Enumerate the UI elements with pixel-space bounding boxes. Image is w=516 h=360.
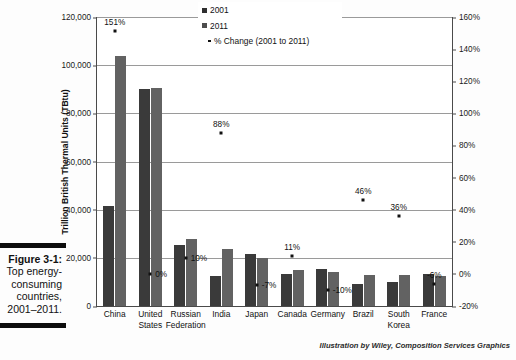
legend-label-pct-change: % Change (2001 to 2011): [214, 36, 309, 46]
bar-2011: [364, 275, 375, 306]
legend-item-pct-change: % Change (2001 to 2011): [202, 36, 338, 46]
legend-item-2011: 2011: [202, 21, 338, 31]
x-axis-label-line: United: [138, 309, 162, 319]
x-axis-label-line: India: [212, 309, 230, 319]
figure-caption-line-4: 2001–2011.: [0, 303, 62, 315]
x-axis-label-line: Brazil: [353, 309, 374, 319]
pct-change-marker: [397, 215, 400, 218]
illustration-credit: Illustration by Wiley, Composition Servi…: [320, 341, 510, 350]
bar-2011: [293, 270, 304, 306]
y-axis-tick-label: 80,000: [66, 109, 97, 118]
legend-label-2011: 2011: [210, 21, 228, 31]
x-axis-label-france: France: [411, 309, 459, 320]
chart-plot-area: 151%0%10%88%-7%11%-10%46%36%-6% 020,0004…: [97, 17, 452, 306]
caption-rule-bottom: [0, 323, 66, 328]
legend-dot-marker-icon: [208, 40, 211, 43]
bar-2011: [399, 275, 410, 306]
bar-group: [316, 17, 339, 306]
y-axis-tick-label: 60,000: [66, 157, 97, 166]
bar-group: [210, 17, 233, 306]
figure-caption-line-1: Top energy-: [0, 265, 62, 277]
x-axis-label-line: South: [388, 309, 410, 319]
pct-change-marker: [255, 284, 258, 287]
y-axis-tick-label: 100,000: [61, 61, 97, 70]
bar-2001: [103, 206, 114, 306]
pct-change-label: 151%: [104, 18, 125, 27]
legend-swatch-2001-icon: [202, 8, 207, 13]
bar-2001: [174, 245, 185, 306]
bar-group: [174, 17, 197, 306]
secondary-y-axis-tick-label: 100%: [452, 109, 480, 118]
x-axis-category-labels: ChinaUnitedStatesRussianFederationIndiaJ…: [97, 309, 452, 343]
secondary-y-axis-tick-label: 40%: [452, 205, 475, 214]
bar-2001: [210, 276, 221, 306]
chart-legend: 2001 2011 % Change (2001 to 2011): [198, 2, 342, 50]
bar-group: [281, 17, 304, 306]
bar-2011: [222, 249, 233, 306]
bar-group: [423, 17, 446, 306]
bar-group: [245, 17, 268, 306]
pct-change-marker: [326, 288, 329, 291]
y-axis-tick-label: 40,000: [66, 205, 97, 214]
x-axis-label-line: Federation: [162, 320, 210, 331]
bar-2011: [115, 56, 126, 306]
bar-group: [352, 17, 375, 306]
pct-change-label: 36%: [391, 203, 407, 212]
x-axis-label-line: Russian: [171, 309, 201, 319]
secondary-y-axis-tick-label: 120%: [452, 77, 480, 86]
chart-plot-frame: 151%0%10%88%-7%11%-10%46%36%-6% 020,0004…: [97, 17, 452, 306]
bar-2001: [387, 282, 398, 306]
figure-caption-line-3: countries,: [0, 290, 62, 302]
bar-2011: [435, 276, 446, 306]
pct-change-label: -7%: [262, 281, 277, 290]
bar-2001: [316, 269, 327, 306]
legend-item-2001: 2001: [202, 5, 338, 15]
x-axis-label-line: France: [421, 309, 447, 319]
bar-2001: [281, 274, 292, 307]
pct-change-marker: [220, 131, 223, 134]
secondary-y-axis-tick-label: 160%: [452, 13, 480, 22]
pct-change-marker: [433, 282, 436, 285]
bar-group: [387, 17, 410, 306]
legend-label-2001: 2001: [210, 5, 229, 15]
pct-change-marker: [113, 30, 116, 33]
x-axis-label-line: Japan: [245, 309, 268, 319]
pct-change-label: 0%: [155, 269, 167, 278]
pct-change-label: -6%: [427, 271, 442, 280]
pct-change-label: 88%: [213, 120, 229, 129]
x-axis-label-line: China: [104, 309, 126, 319]
pct-change-label: 46%: [355, 187, 371, 196]
secondary-y-axis-line: [452, 17, 453, 306]
figure-caption-text: Figure 3-1: Top energy- consuming countr…: [0, 248, 66, 319]
figure-caption-label: Figure 3-1:: [0, 253, 62, 265]
bar-2011: [186, 239, 197, 306]
pct-change-marker: [362, 199, 365, 202]
x-axis-line: [96, 306, 453, 307]
secondary-y-axis-tick-label: 20%: [452, 237, 475, 246]
secondary-y-axis-tick-label: 80%: [452, 141, 475, 150]
pct-change-marker: [291, 255, 294, 258]
y-axis-tick-label: 120,000: [61, 13, 97, 22]
secondary-y-axis-tick-label: 0%: [452, 269, 471, 278]
bar-group: [139, 17, 162, 306]
legend-swatch-2011-icon: [202, 23, 207, 28]
pct-change-label: 10%: [191, 253, 207, 262]
pct-change-marker: [184, 256, 187, 259]
x-axis-label-line: Korea: [375, 320, 423, 331]
x-axis-label-line: Canada: [278, 309, 307, 319]
pct-change-label: 11%: [284, 243, 300, 252]
secondary-y-axis-tick-label: 140%: [452, 45, 480, 54]
pct-change-marker: [149, 272, 152, 275]
bar-2001: [245, 254, 256, 306]
secondary-y-axis-tick-label: 60%: [452, 173, 475, 182]
pct-change-label: -10%: [333, 285, 352, 294]
figure-container: Figure 3-1: Top energy- consuming countr…: [0, 0, 516, 360]
bar-group: [103, 17, 126, 306]
bar-2001: [352, 284, 363, 306]
y-axis-tick-label: 20,000: [66, 253, 97, 262]
figure-caption-block: Figure 3-1: Top energy- consuming countr…: [0, 243, 66, 328]
figure-caption-line-2: consuming: [0, 278, 62, 290]
